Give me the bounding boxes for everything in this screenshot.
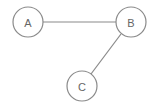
edge-b-c [91,34,121,74]
graph-diagram: A B C [0,0,155,108]
node-c-label: C [78,81,86,93]
node-a: A [13,7,43,37]
node-a-label: A [24,17,32,29]
node-b-label: B [127,17,134,29]
node-c: C [67,71,97,101]
node-b: B [116,7,146,37]
